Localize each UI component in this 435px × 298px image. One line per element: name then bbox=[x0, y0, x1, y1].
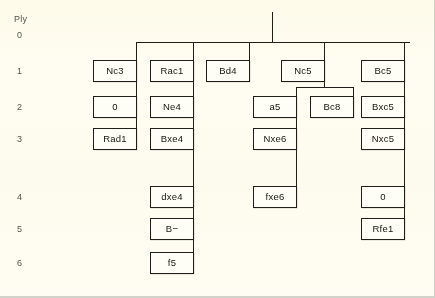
tree-node-n-rac1: Rac1 bbox=[150, 60, 194, 82]
tree-node-n-bc8: Bc8 bbox=[310, 96, 354, 118]
tree-node-n-nxc5: Nxc5 bbox=[361, 128, 405, 150]
tree-node-n-ne4: Ne4 bbox=[150, 96, 194, 118]
edge-root-stem bbox=[272, 12, 273, 42]
tree-node-n-0b: 0 bbox=[361, 186, 405, 208]
edge-nxc5-to-0b bbox=[404, 150, 405, 187]
tree-node-n-fxe6: fxe6 bbox=[253, 186, 297, 208]
tree-node-n-nc5: Nc5 bbox=[281, 60, 325, 82]
tree-node-n-f5: f5 bbox=[150, 252, 194, 274]
tree-node-n-bd4: Bd4 bbox=[206, 60, 250, 82]
ply-label-1: 1 bbox=[17, 66, 22, 76]
game-tree-figure: Ply 0123456 Nc3Rac1Bd4Nc5Bc50Ne4a5Bc8Bxc… bbox=[0, 0, 435, 298]
edge-root-bus bbox=[136, 42, 410, 43]
edge-bxe4-to-dxe4 bbox=[193, 150, 194, 187]
tree-node-n-0a: 0 bbox=[93, 96, 137, 118]
ply-axis-title: Ply bbox=[14, 14, 27, 24]
ply-label-5: 5 bbox=[17, 224, 22, 234]
ply-label-0: 0 bbox=[17, 30, 22, 40]
edge-nc5-bus bbox=[296, 87, 353, 88]
edge-nc5-stem bbox=[324, 82, 325, 87]
ply-label-2: 2 bbox=[17, 102, 22, 112]
tree-node-n-dxe4: dxe4 bbox=[150, 186, 194, 208]
tree-node-n-bxc5: Bxc5 bbox=[361, 96, 405, 118]
tree-node-n-bxe4: Bxe4 bbox=[150, 128, 194, 150]
ply-label-3: 3 bbox=[17, 134, 22, 144]
edge-root-to-nc5 bbox=[324, 42, 325, 60]
tree-node-n-rad1: Rad1 bbox=[93, 128, 137, 150]
tree-node-n-rfe1: Rfe1 bbox=[361, 218, 405, 240]
tree-node-n-bc5: Bc5 bbox=[361, 60, 405, 82]
ply-label-6: 6 bbox=[17, 258, 22, 268]
edge-bc5-to-bxc5 bbox=[404, 82, 405, 96]
edge-root-to-bc5 bbox=[404, 42, 405, 60]
tree-node-n-a5: a5 bbox=[253, 96, 297, 118]
edge-root-to-nc3 bbox=[136, 42, 137, 60]
tree-node-n-bminus: B− bbox=[150, 218, 194, 240]
ply-label-4: 4 bbox=[17, 192, 22, 202]
edge-rac1-to-ne4 bbox=[193, 82, 194, 96]
edge-nc3-to-0a bbox=[136, 82, 137, 96]
edge-nxe6-to-fxe6 bbox=[296, 150, 297, 187]
tree-node-n-nxe6: Nxe6 bbox=[253, 128, 297, 150]
edge-root-to-bd4 bbox=[249, 42, 250, 60]
tree-node-n-nc3: Nc3 bbox=[93, 60, 137, 82]
edge-root-to-rac1 bbox=[193, 42, 194, 60]
